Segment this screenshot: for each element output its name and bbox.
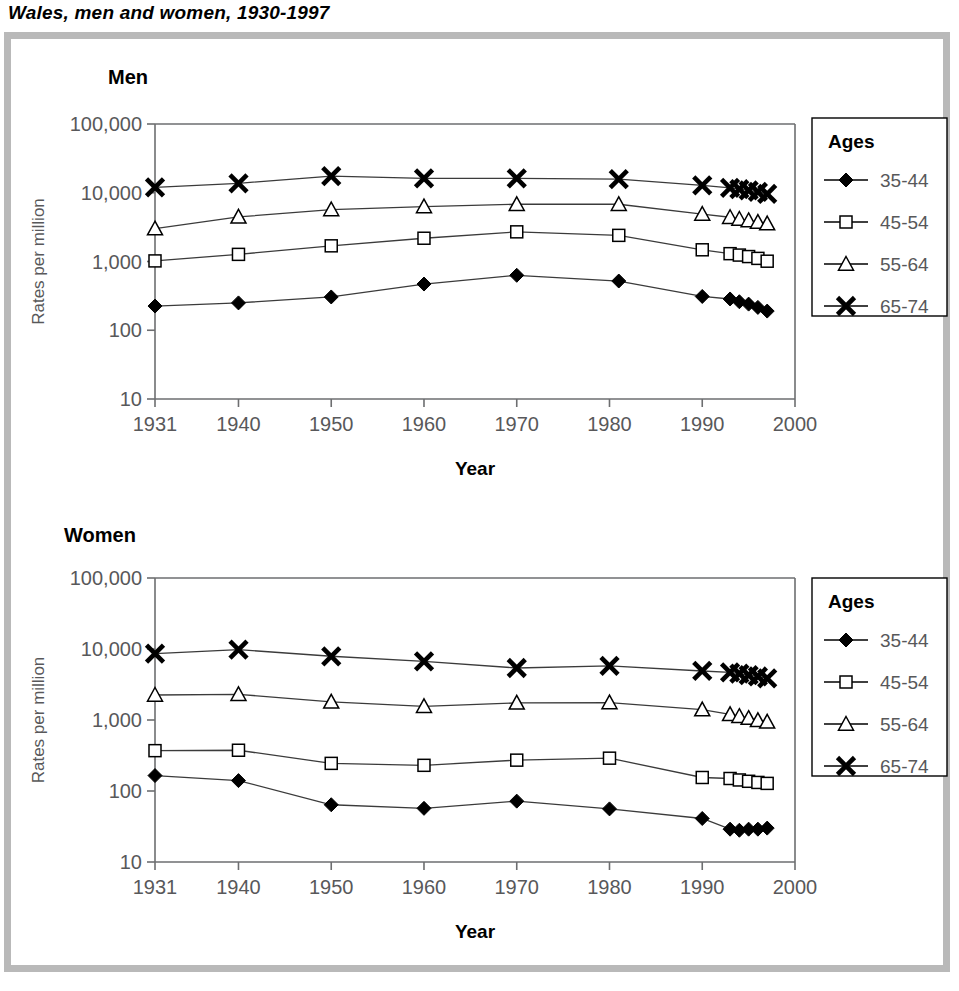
series-55-64 [148,687,775,728]
marker-diamond [760,821,774,835]
marker-diamond [612,274,626,288]
legend-title: Ages [828,591,874,612]
marker-diamond [695,289,709,303]
chart-svg-men: 100,00010,0001,0001001019311940195019601… [0,40,959,500]
x-tick-label: 1950 [309,876,354,898]
y-tick-label: 100,000 [70,113,142,135]
series-polyline [155,232,767,261]
series-65-74 [147,168,776,203]
marker-square [232,248,244,260]
series-65-74 [147,641,776,687]
marker-square [325,240,337,252]
series-polyline [155,204,767,228]
figure-title: Wales, men and women, 1930-1997 [8,2,330,24]
marker-triangle [509,197,524,211]
marker-diamond [231,774,245,788]
legend-label-35-44: 35-44 [880,170,929,191]
marker-square [761,255,773,267]
series-35-44 [148,769,774,838]
marker-diamond [324,290,338,304]
marker-square [325,757,337,769]
chart-panel-women: Women 100,00010,0001,0001001019311940195… [0,498,959,958]
y-tick-label: 100 [109,780,142,802]
marker-diamond [602,802,616,816]
marker-diamond [148,299,162,313]
marker-diamond [231,296,245,310]
x-axis-title: Year [455,921,496,942]
x-tick-label: 1931 [133,413,178,435]
legend-label-35-44: 35-44 [880,630,929,651]
x-tick-label: 1970 [494,413,539,435]
x-tick-label: 1960 [402,413,447,435]
x-tick-label: 1931 [133,876,178,898]
marker-square [613,229,625,241]
marker-square [696,771,708,783]
marker-triangle [509,695,524,709]
legend-label-55-64: 55-64 [880,254,929,275]
chart-panel-men: Men 100,00010,0001,000100101931194019501… [0,40,959,500]
marker-square [418,232,430,244]
series-polyline [155,694,767,722]
x-tick-label: 1970 [494,876,539,898]
y-tick-label: 10,000 [81,638,142,660]
series-polyline [155,275,767,311]
marker-square [149,745,161,757]
marker-diamond [324,798,338,812]
legend-title: Ages [828,131,874,152]
x-tick-label: 1990 [680,413,725,435]
marker-triangle [602,695,617,709]
y-tick-label: 10,000 [81,182,142,204]
x-tick-label: 1940 [216,413,261,435]
marker-diamond [695,811,709,825]
marker-square [761,777,773,789]
y-tick-label: 100,000 [70,567,142,589]
series-polyline [155,650,767,679]
x-tick-label: 1980 [587,876,632,898]
x-tick-label: 2000 [773,876,818,898]
marker-square [511,754,523,766]
marker-square [840,676,852,688]
y-axis-title: Rates per million [29,657,48,784]
chart-svg-women: 100,00010,0001,0001001019311940195019601… [0,498,959,958]
x-tick-label: 1990 [680,876,725,898]
y-tick-label: 1,000 [92,709,142,731]
x-tick-label: 1940 [216,876,261,898]
series-45-54 [149,226,773,267]
marker-triangle [611,197,626,211]
marker-triangle [231,687,246,701]
legend-label-45-54: 45-54 [880,672,929,693]
marker-square [418,759,430,771]
marker-square [696,244,708,256]
y-tick-label: 10 [120,388,142,410]
legend: Ages35-4445-5455-6465-74 [812,578,947,777]
marker-square [511,226,523,238]
x-tick-label: 1960 [402,876,447,898]
x-tick-label: 2000 [773,413,818,435]
x-tick-label: 1950 [309,413,354,435]
y-tick-label: 100 [109,319,142,341]
series-35-44 [148,268,774,318]
series-polyline [155,750,767,783]
x-axis-title: Year [455,458,496,479]
x-tick-label: 1980 [587,413,632,435]
figure-container: Wales, men and women, 1930-1997 Men 100,… [0,0,959,991]
legend-label-45-54: 45-54 [880,212,929,233]
marker-square [232,744,244,756]
y-tick-label: 10 [120,851,142,873]
marker-diamond [417,801,431,815]
legend-label-65-74: 65-74 [880,296,929,317]
series-polyline [155,776,767,831]
marker-diamond [510,794,524,808]
marker-diamond [510,268,524,282]
legend-label-65-74: 65-74 [880,756,929,777]
y-axis-title: Rates per million [29,198,48,325]
marker-square [840,216,852,228]
marker-square [603,752,615,764]
y-tick-label: 1,000 [92,251,142,273]
legend: Ages35-4445-5455-6465-74 [812,118,947,317]
marker-square [149,255,161,267]
marker-diamond [148,769,162,783]
marker-diamond [417,277,431,291]
legend-label-55-64: 55-64 [880,714,929,735]
series-55-64 [148,197,775,235]
